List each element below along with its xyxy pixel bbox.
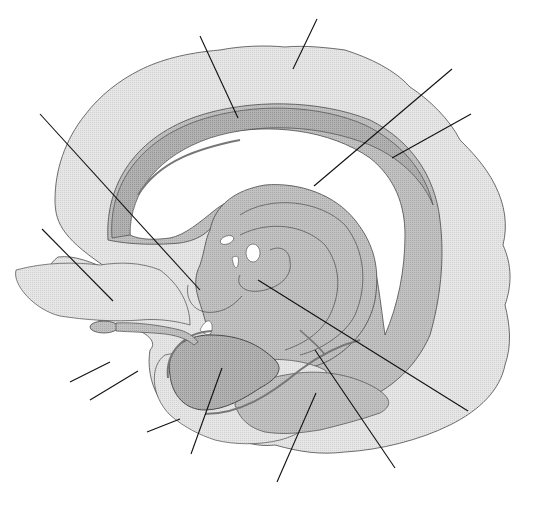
diagram-artwork [0,0,547,509]
limbic-system-diagram [0,0,547,509]
leader-temporal-lobe [147,419,180,432]
leader-olfactory-tract [90,371,138,400]
olfactory-bulb-shape [90,321,118,333]
leader-olfactory-bulb [70,362,110,382]
